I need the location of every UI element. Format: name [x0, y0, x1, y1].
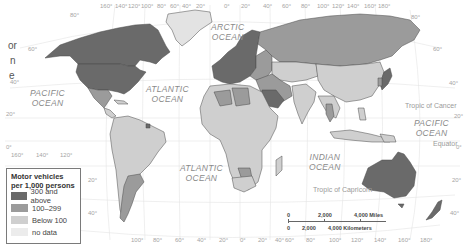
graticule-top-label: 140°: [115, 3, 127, 9]
graticule-lon-label: 120°: [60, 152, 72, 158]
graticule-lat-label: 80°: [70, 12, 79, 18]
ocean-label-indian: INDIANOCEAN: [309, 152, 341, 172]
country-tasmania: [398, 204, 404, 208]
graticule-bottom-label: 60°: [285, 237, 294, 243]
label-tropic-of-cancer: Tropic of Cancer: [405, 102, 456, 110]
legend-item-high: 300 and above: [11, 190, 76, 202]
ocean-label-atlantic-north: ATLANTICOCEAN: [146, 84, 189, 104]
graticule-top-label: 80°: [157, 3, 166, 9]
legend-swatch-high: [11, 192, 27, 200]
graticule-bottom-label: 160°: [398, 237, 410, 243]
title-fragment-1: or: [8, 38, 17, 53]
graticule-bottom-label: 40°: [275, 237, 284, 243]
legend-item-low: Below 100: [11, 214, 76, 226]
graticule-top-label: 80°: [301, 3, 310, 9]
region-caribbean: [114, 100, 128, 104]
legend-swatch-low: [11, 216, 28, 224]
graticule-top-label: 100°: [141, 3, 153, 9]
graticule-bottom-label: 180°: [420, 237, 432, 243]
scale-tick: [324, 219, 325, 222]
graticule-bottom-label: 20°: [219, 237, 228, 243]
label-tropic-of-capricorn: Tropic of Capricorn: [313, 186, 372, 194]
graticule-lat-label: 20°: [88, 177, 97, 183]
graticule-top-label: 120°: [332, 3, 344, 9]
scale-km-2000: 2,000: [302, 225, 316, 231]
graticule-top-label: 180°: [378, 3, 390, 9]
scale-km-4000: 4,000 Kilometers: [328, 225, 372, 231]
graticule-top-label: 160°: [100, 3, 112, 9]
graticule-lat-label: 20°: [6, 111, 15, 117]
title-fragment-2: n: [10, 53, 16, 68]
map-legend: Motor vehicles per 1,000 persons 300 and…: [6, 168, 81, 244]
scale-miles-2000: 2,000: [318, 212, 332, 218]
graticule-top-label: 60°: [282, 3, 291, 9]
scale-tick: [288, 219, 289, 223]
ocean-label-pacific-west: PACIFICOCEAN: [30, 88, 65, 108]
graticule-top-label: 140°: [347, 3, 359, 9]
graticule-bottom-label: 140°: [374, 237, 386, 243]
graticule-bottom-label: 20°: [258, 237, 267, 243]
graticule-top-label: 60°: [170, 3, 179, 9]
country-russia: [258, 14, 420, 66]
graticule-bottom-label: 80°: [153, 237, 162, 243]
graticule-lat-label: 40°: [450, 210, 459, 216]
legend-swatch-mid: [11, 204, 28, 212]
country-madagascar: [276, 156, 282, 176]
graticule-lat-label: 40°: [10, 79, 19, 85]
graticule-top-label: 160°: [364, 3, 376, 9]
country-greenland: [166, 10, 212, 46]
graticule-lat-label: 80°: [411, 14, 420, 20]
graticule-lat-label: 20°: [452, 177, 461, 183]
country-mexico: [88, 88, 112, 108]
graticule-lat-label: 40°: [449, 80, 458, 86]
graticule-top-label: 40°: [263, 3, 272, 9]
graticule-bottom-label: 60°: [175, 237, 184, 243]
ocean-label-pacific-east: PACIFICOCEAN: [414, 118, 449, 138]
country-french-guiana: [146, 124, 150, 128]
graticule-bottom-label: 0°: [240, 237, 246, 243]
legend-label: 300 and above: [31, 187, 76, 205]
scale-tick: [360, 219, 361, 222]
graticule-bottom-label: 40°: [197, 237, 206, 243]
country-canada-alaska: [45, 24, 170, 66]
graticule-lat-label: 0°: [456, 144, 462, 150]
graticule-top-label: 20°: [196, 3, 205, 9]
legend-label: no data: [32, 228, 57, 237]
graticule-top-label: 20°: [241, 3, 250, 9]
scale-km-0: 0: [287, 225, 290, 231]
legend-label: 100–299: [32, 204, 61, 213]
legend-title-line1: Motor vehicles: [11, 172, 76, 181]
graticule-lon-label: 140°: [36, 152, 48, 158]
legend-item-nodata: no data: [11, 226, 76, 238]
graticule-top-label: 0°: [224, 3, 230, 9]
region-south-america: [110, 116, 166, 220]
country-south-africa: [232, 176, 256, 192]
graticule-bottom-label: 100°: [329, 237, 341, 243]
graticule-lat-label: 0°: [6, 144, 12, 150]
graticule-bottom-label: 100°: [131, 237, 143, 243]
graticule-lat-label: 60°: [28, 46, 37, 52]
ocean-label-arctic: ARCTICOCEAN: [211, 22, 244, 42]
label-equator: Equator: [433, 140, 458, 148]
graticule-top-label: 40°: [182, 3, 191, 9]
scale-line: [288, 221, 386, 222]
country-korea: [378, 78, 382, 86]
graticule-bottom-label: 80°: [306, 237, 315, 243]
graticule-bottom-label: 120°: [351, 237, 363, 243]
scale-miles-4000: 4,000 Miles: [354, 212, 383, 218]
graticule-lat-label: 60°: [433, 46, 442, 52]
graticule-lat-label: 40°: [88, 210, 97, 216]
legend-label: Below 100: [32, 216, 67, 225]
graticule-top-label: 100°: [317, 3, 329, 9]
country-new-zealand: [426, 200, 442, 220]
graticule-lon-label: 160°: [11, 152, 23, 158]
country-usa: [76, 64, 146, 94]
ocean-label-atlantic-south: ATLANTICOCEAN: [180, 163, 223, 183]
scale-miles-0: 0: [287, 212, 290, 218]
graticule-lat-label: 20°: [454, 113, 463, 119]
region-central-america: [104, 108, 116, 118]
graticule-top-label: 120°: [128, 3, 140, 9]
legend-swatch-nodata: [11, 228, 28, 236]
